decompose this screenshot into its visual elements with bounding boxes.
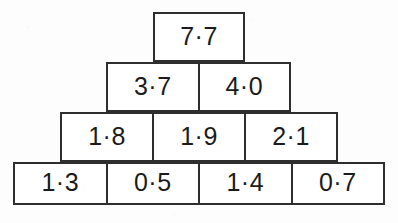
pyramid-cell-r3c2: 1·9 [152, 114, 244, 160]
pyramid-cell-r3c1: 1·8 [62, 114, 152, 160]
pyramid-row-3: 1·8 1·9 2·1 [60, 112, 338, 162]
pyramid-cell-r4c2: 0·5 [106, 164, 199, 203]
pyramid-row-1: 7·7 [153, 12, 245, 62]
pyramid-cell-r4c1: 1·3 [15, 164, 106, 203]
pyramid-cell-r4c3: 1·4 [198, 164, 291, 203]
pyramid-cell-r2c2: 4·0 [198, 64, 290, 110]
pyramid-row-4: 1·3 0·5 1·4 0·7 [13, 162, 385, 205]
pyramid-cell-r4c4: 0·7 [291, 164, 384, 203]
pyramid-cell-r2c1: 3·7 [108, 64, 198, 110]
pyramid-row-2: 3·7 4·0 [106, 62, 291, 112]
pyramid-cell-r3c3: 2·1 [244, 114, 336, 160]
addition-pyramid-figure: 7·7 3·7 4·0 1·8 1·9 2·1 1·3 0·5 1·4 0·7 [0, 0, 398, 223]
pyramid-cell-r1c1: 7·7 [155, 14, 243, 60]
